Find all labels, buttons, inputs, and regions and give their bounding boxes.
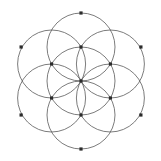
vertex-marker-inner-southeast (109, 96, 112, 99)
vertex-marker-center (79, 79, 82, 82)
vertex-marker-outer-southeast (139, 113, 142, 116)
vertex-marker-inner-south (79, 113, 82, 116)
vertex-marker-outer-southwest (20, 113, 23, 116)
vertex-marker-inner-northwest (50, 62, 53, 65)
vertex-marker-inner-north (79, 45, 82, 48)
vertex-marker-outer-northwest (20, 45, 23, 48)
vertex-marker-inner-northeast (109, 62, 112, 65)
seed-of-life-canvas (0, 0, 161, 161)
vertex-marker-outer-northeast (139, 45, 142, 48)
vertex-marker-inner-southwest (50, 96, 53, 99)
vertex-marker-outer-north (79, 11, 82, 14)
vertex-marker-outer-south (79, 147, 82, 150)
seed-of-life-figure (0, 0, 161, 161)
